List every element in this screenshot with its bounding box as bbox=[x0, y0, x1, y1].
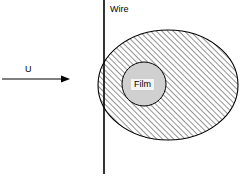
wire-label: Wire bbox=[110, 5, 129, 14]
velocity-arrow bbox=[2, 76, 70, 83]
wire-coating-diagram: Wire U Film bbox=[0, 0, 246, 178]
film-label: Film bbox=[131, 79, 154, 90]
coating-region-ellipse bbox=[98, 30, 238, 140]
velocity-label: U bbox=[25, 65, 32, 74]
velocity-arrow-head bbox=[61, 76, 70, 83]
diagram-canvas bbox=[0, 0, 246, 178]
